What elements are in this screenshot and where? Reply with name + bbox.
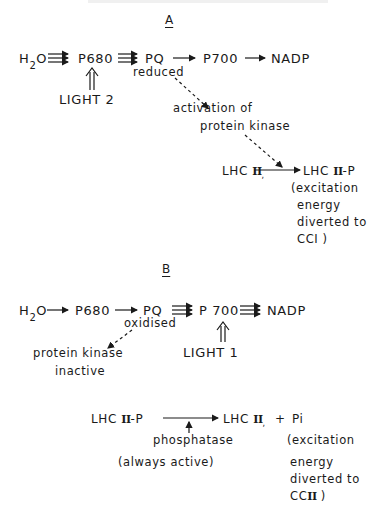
a-kinase-line1: activation of [173, 103, 253, 115]
b-light: LIGHT 1 [183, 346, 238, 359]
b-kinase-line2: inactive [55, 366, 105, 378]
a-note-2: energy [297, 200, 341, 212]
a-pq-state: reduced [133, 67, 184, 79]
b-note-3: diverted to [290, 474, 360, 486]
b-lhc-left: LHC II-P [91, 413, 143, 425]
a-light: LIGHT 2 [59, 93, 114, 106]
triple-arrow-icon [48, 54, 68, 62]
a-nadp: NADP [271, 52, 310, 65]
a-p680: P680 [78, 52, 113, 65]
double-up-arrow-icon [86, 68, 98, 90]
b-pq-state: oxidised [124, 318, 176, 330]
b-enzyme: phosphatase [153, 435, 233, 447]
b-note-4: CCII ) [290, 491, 326, 503]
a-kinase-line2: protein kinase [200, 121, 290, 133]
panel-b-label: B [162, 262, 170, 276]
a-note-3: diverted to [297, 217, 367, 229]
a-note-1: (excitation [291, 183, 359, 195]
a-lhc-right: LHC II-P [303, 165, 355, 177]
b-note-1: (excitation [287, 435, 355, 447]
b-p700: P 700 [199, 304, 239, 317]
dashed-arrow-icon [245, 135, 282, 167]
b-pi: Pi [292, 413, 304, 425]
panel-a-label: A [165, 13, 173, 27]
b-note-2: energy [290, 457, 334, 469]
a-note-4: CCI ) [297, 234, 328, 246]
b-nadp: NADP [267, 304, 306, 317]
b-lhc-right: LHC II, [223, 413, 266, 425]
b-h2o: H2O [19, 304, 47, 317]
triple-arrow-icon [118, 54, 137, 62]
double-up-arrow-icon [217, 322, 229, 342]
scan-bleed-line [88, 0, 328, 3]
triple-arrow-icon [172, 306, 192, 314]
a-p700: P700 [203, 52, 238, 65]
b-plus: + [275, 413, 286, 425]
b-enzyme-note: (always active) [118, 457, 214, 469]
triple-arrow-icon [240, 306, 260, 314]
a-h2o: H2O [19, 52, 47, 65]
a-pq: PQ [145, 52, 164, 65]
b-kinase-line1: protein kinase [33, 348, 123, 360]
b-p680: P680 [75, 304, 110, 317]
a-lhc-left: LHC II, [222, 165, 265, 177]
